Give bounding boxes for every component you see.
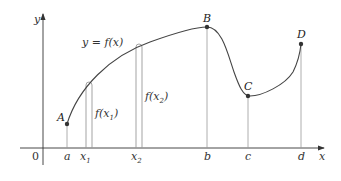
- tick-b: b: [204, 150, 211, 163]
- curve-label: y = f(x): [81, 36, 123, 49]
- tick-x1: x1: [80, 150, 91, 165]
- point-d: [299, 42, 303, 46]
- tick-x2: x2: [131, 150, 142, 165]
- point-a: [65, 122, 69, 126]
- height-bar-x2: [136, 44, 142, 148]
- tick-c: c: [245, 150, 251, 163]
- point-b: [205, 25, 209, 29]
- label-point-d: D: [296, 28, 306, 41]
- label-point-a: A: [56, 111, 65, 124]
- tick-d: d: [298, 150, 305, 163]
- tick-a: a: [64, 150, 71, 163]
- label-point-b: B: [202, 12, 211, 25]
- x-axis-label: x: [319, 150, 326, 163]
- y-axis-label: y: [33, 13, 41, 26]
- origin-label: 0: [32, 150, 39, 163]
- height-bar-x1: [86, 82, 92, 148]
- function-graph: A B C D y x 0 y = f(x) a b c d x1 x2 f(x…: [0, 0, 341, 181]
- point-c: [246, 94, 250, 98]
- height-label-fx2: f(x2): [144, 90, 168, 105]
- label-point-c: C: [244, 80, 253, 93]
- height-label-fx1: f(x1): [94, 107, 118, 122]
